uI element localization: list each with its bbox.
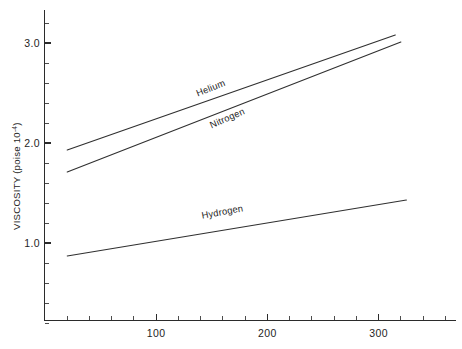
x-tick-label: 100 [147, 327, 166, 339]
svg-text:VISCOSITY (poise 10-4): VISCOSITY (poise 10-4) [11, 122, 22, 230]
chart-figure: 1.02.03.0 100200300 VISCOSITY (poise 10-… [0, 0, 462, 349]
chart-background [0, 0, 462, 349]
viscosity-line-chart: 1.02.03.0 100200300 VISCOSITY (poise 10-… [0, 0, 462, 349]
y-axis-title-main: VISCOSITY (poise 10 [11, 132, 22, 230]
y-tick-label: 2.0 [24, 137, 40, 149]
x-tick-label: 200 [258, 327, 277, 339]
x-tick-label: 300 [369, 327, 388, 339]
y-axis-title: VISCOSITY (poise 10-4) [11, 122, 22, 230]
y-axis-title-suffix: ) [11, 122, 22, 125]
y-tick-label: 1.0 [24, 237, 40, 249]
y-tick-label: 3.0 [24, 37, 40, 49]
